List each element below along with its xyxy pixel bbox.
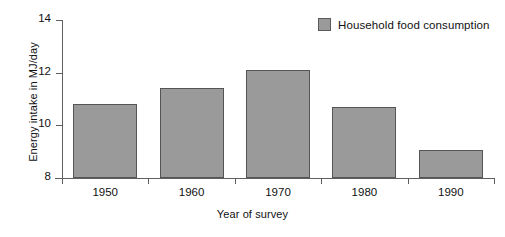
- y-tick: 14: [56, 20, 63, 21]
- bar: [160, 88, 224, 178]
- x-axis-title: Year of survey: [0, 208, 505, 220]
- bar: [419, 150, 483, 178]
- bar-chart-figure: Household food consumption Energy intake…: [0, 0, 505, 237]
- y-axis-title: Energy intake in MJ/day: [27, 22, 39, 182]
- x-axis-line: [55, 178, 495, 179]
- y-tick: 12: [56, 73, 63, 74]
- y-tick-label: 10: [38, 117, 51, 129]
- x-tick: [235, 178, 236, 184]
- y-tick-label: 14: [38, 12, 51, 24]
- x-tick-label: 1980: [352, 186, 378, 198]
- x-tick: [494, 178, 495, 184]
- x-tick: [321, 178, 322, 184]
- plot-area: 8101214 19501960197019801990: [62, 20, 494, 178]
- y-tick: 10: [56, 125, 63, 126]
- x-tick-label: 1970: [265, 186, 291, 198]
- y-axis-line: [62, 20, 63, 178]
- bar: [246, 70, 310, 178]
- y-tick-label: 8: [45, 170, 51, 182]
- x-tick-label: 1950: [92, 186, 118, 198]
- x-tick: [408, 178, 409, 184]
- x-tick: [148, 178, 149, 184]
- x-tick: [62, 178, 63, 184]
- bar: [332, 107, 396, 178]
- x-tick-label: 1960: [179, 186, 205, 198]
- x-tick-label: 1990: [438, 186, 464, 198]
- y-tick-label: 12: [38, 65, 51, 77]
- bar: [73, 104, 137, 178]
